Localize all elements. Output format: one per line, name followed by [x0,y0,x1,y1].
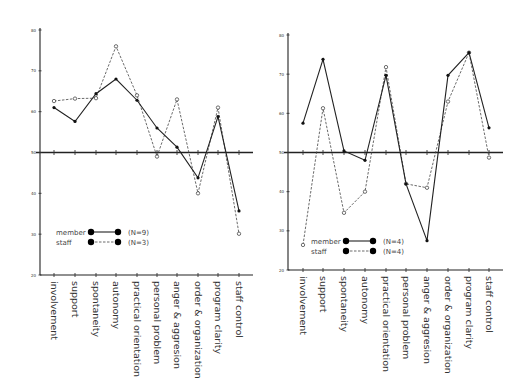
y-tick-label: 70 [279,72,285,77]
member-data-point [487,126,490,129]
staff-series-line [303,53,489,245]
member-data-point [321,58,324,61]
x-tick-label: staff control [234,281,245,338]
staff-data-point [321,107,324,110]
member-data-point [175,146,178,149]
member-data-point [155,126,158,129]
x-tick-label: support [318,276,329,313]
member-data-point [342,149,345,152]
x-tick-label: anger & aggresion [422,276,433,364]
legend-marker [115,229,121,235]
staff-data-point [196,192,199,195]
staff-data-point [175,98,178,101]
legend-label-staff: staff [311,248,327,256]
member-data-point [73,120,76,123]
staff-data-point [114,45,117,48]
member-data-point [446,74,449,77]
x-tick-label: personal problem [401,276,412,359]
member-data-point [52,106,55,109]
legend-marker [88,229,94,235]
y-tick-label: 60 [279,111,285,116]
member-data-point [384,74,387,77]
x-tick-label: involvement [298,276,309,335]
legend-n-staff: (N=3) [128,239,149,247]
legend-marker [343,248,349,254]
member-data-point [301,122,304,125]
member-data-point [467,51,470,54]
legend-marker [115,239,121,245]
staff-data-point [446,100,449,103]
y-tick-label: 50 [31,150,37,155]
legend-label-staff: staff [56,239,72,247]
x-tick-label: order & organization [193,281,204,379]
staff-data-point [135,94,138,97]
y-tick-label: 80 [279,33,285,38]
chart-canvas: 80706050403020involvementsupportspontane… [0,0,532,386]
staff-data-point [342,211,345,214]
y-tick-label: 30 [31,232,37,237]
y-tick-label: 20 [31,273,37,278]
legend-marker [370,248,376,254]
member-data-point [94,92,97,95]
staff-data-point [363,190,366,193]
staff-data-point [384,65,387,68]
legend: member(N=4)staff(N=4) [311,238,404,256]
staff-data-point [301,243,304,246]
member-data-point [216,115,219,118]
chart-2: 80706050403020involvementsupportspontane… [279,33,503,374]
x-tick-label: spontaneity [91,281,102,338]
legend-n-member: (N=9) [128,229,149,237]
staff-data-point [237,232,240,235]
member-data-point [404,182,407,185]
x-tick-label: autonomy [111,281,122,329]
x-tick-label: spontaneity [339,276,350,333]
x-tick-label: autonomy [360,276,371,324]
x-tick-label: anger & aggresion [172,281,183,369]
x-tick-label: personal problem [152,281,163,364]
staff-data-point [73,97,76,100]
member-data-point [135,99,138,102]
x-tick-label: program clarity [213,281,224,355]
staff-data-point [94,96,97,99]
staff-data-point [155,155,158,158]
staff-data-point [487,156,490,159]
legend-n-staff: (N=4) [383,248,404,256]
staff-series-line [54,46,239,233]
y-tick-label: 40 [279,189,285,194]
x-tick-label: staff control [484,276,495,333]
member-series-line [54,79,239,211]
legend-marker [343,238,349,244]
y-tick-label: 30 [279,228,285,233]
y-tick-label: 70 [31,68,37,73]
y-tick-label: 60 [31,109,37,114]
legend-n-member: (N=4) [383,238,404,246]
legend-label-member: member [311,238,341,246]
y-tick-label: 80 [31,28,37,33]
legend-marker [370,238,376,244]
x-tick-label: support [70,281,81,318]
legend-marker [88,239,94,245]
x-tick-label: practical orientation [381,276,392,372]
staff-data-point [216,106,219,109]
x-tick-label: order & organization [443,276,454,374]
legend: member(N=9)staff(N=3) [56,229,149,247]
chart-1: 80706050403020involvementsupportspontane… [31,28,253,379]
legend-label-member: member [56,229,86,237]
member-data-point [363,159,366,162]
x-tick-label: program clarity [464,276,475,350]
member-data-point [114,77,117,80]
x-tick-label: involvement [49,281,60,340]
member-data-point [237,209,240,212]
member-data-point [196,176,199,179]
staff-data-point [425,186,428,189]
member-data-point [425,239,428,242]
y-tick-label: 50 [279,150,285,155]
staff-data-point [52,99,55,102]
y-tick-label: 40 [31,191,37,196]
y-tick-label: 20 [279,268,285,273]
x-tick-label: practical orientation [132,281,143,377]
